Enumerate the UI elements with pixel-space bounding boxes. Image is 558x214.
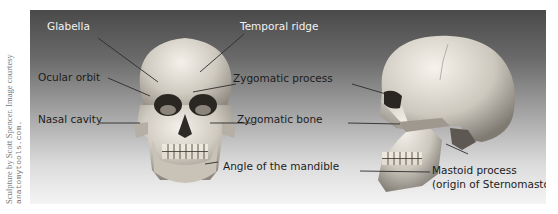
skull-anatomy-figure: Glabella Temporal ridge Ocular orbit Zyg… — [30, 10, 546, 204]
image-credit: Sculpture by Scott Spencer. Image courte… — [4, 4, 24, 204]
front-skull — [134, 38, 236, 183]
label-zygomatic-process: Zygomatic process — [233, 72, 333, 84]
label-mastoid-origin: (origin of Sternomastoid) — [432, 178, 546, 190]
label-glabella: Glabella — [47, 20, 90, 32]
label-zygomatic-bone: Zygomatic bone — [237, 113, 323, 125]
credit-line-2: anatomytools.com. — [14, 4, 24, 204]
label-ocular-orbit: Ocular orbit — [38, 71, 100, 83]
credit-line-1: Sculpture by Scott Spencer. Image courte… — [4, 4, 14, 204]
label-mastoid-process: Mastoid process — [432, 164, 517, 176]
label-nasal-cavity: Nasal cavity — [38, 113, 102, 125]
label-temporal-ridge: Temporal ridge — [240, 20, 318, 32]
label-angle-of-mandible: Angle of the mandible — [223, 160, 339, 172]
